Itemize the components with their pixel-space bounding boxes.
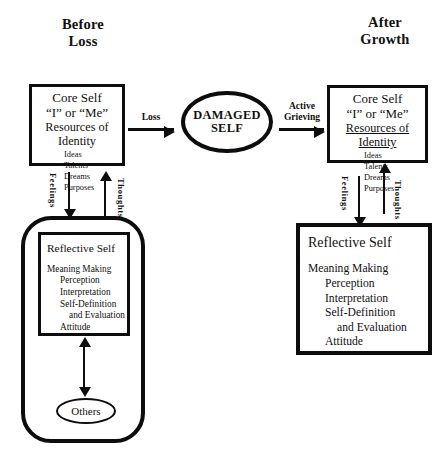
damaged-self-line1: DAMAGED xyxy=(193,109,261,122)
active-grieving-arrow xyxy=(279,128,324,131)
list-item: Self-Definition xyxy=(308,306,428,321)
active-grieving-line2: Grieving xyxy=(272,112,332,123)
thoughts-label-right: Thoughts xyxy=(393,180,403,220)
column-header-before-loss: Before Loss xyxy=(28,16,138,49)
loss-arrow xyxy=(128,128,174,131)
feelings-label-right: Feelings xyxy=(340,176,350,211)
feelings-arrow-right xyxy=(358,176,360,218)
thoughts-arrow-left xyxy=(104,180,106,218)
core-self-box-right: Core Self “I” or “Me” Resources of Ident… xyxy=(327,85,428,163)
list-item: Purposes xyxy=(64,182,120,193)
reflective-self-right-items: Meaning Making Perception Interpretation… xyxy=(308,262,428,350)
list-item: Interpretation xyxy=(47,287,127,299)
list-item: Talents xyxy=(364,161,423,172)
list-item: Perception xyxy=(47,275,127,287)
header-before-line1: Before xyxy=(28,16,138,33)
list-item: Interpretation xyxy=(308,292,428,307)
list-item: Talents xyxy=(64,160,120,171)
header-before-line2: Loss xyxy=(28,33,138,50)
list-item: Ideas xyxy=(64,149,120,160)
loss-arrow-label: Loss xyxy=(124,112,178,123)
list-item: Attitude xyxy=(308,335,428,350)
header-after-line1: After xyxy=(330,14,440,31)
core-self-left-title: Core Self xyxy=(34,91,120,106)
reflective-self-box-left: Reflective Self Meaning Making Perceptio… xyxy=(38,232,130,336)
active-grieving-arrow-label: Active Grieving xyxy=(272,101,332,122)
list-item: Meaning Making xyxy=(47,264,127,276)
feelings-label-left: Feelings xyxy=(48,173,58,208)
feelings-arrow-left xyxy=(68,172,70,210)
reflective-self-left-items: Meaning Making Perception Interpretation… xyxy=(47,264,127,334)
list-item: and Evaluation xyxy=(308,321,428,336)
column-header-after-growth: After Growth xyxy=(330,14,440,47)
thoughts-label-left: Thoughts xyxy=(116,178,126,218)
core-self-left-subtitle: “I” or “Me” xyxy=(34,106,120,121)
header-after-line2: Growth xyxy=(330,31,440,48)
others-label: Others xyxy=(71,405,100,417)
diagram-canvas: Before Loss After Growth Core Self “I” o… xyxy=(0,0,443,458)
core-self-left-resources-heading: Resources of Identity xyxy=(34,120,120,148)
reflective-self-right-title: Reflective Self xyxy=(308,235,428,250)
reflective-self-others-arrow xyxy=(83,346,85,388)
list-item: Self-Definition xyxy=(47,299,127,311)
core-self-right-subtitle: “I” or “Me” xyxy=(332,107,423,122)
core-self-right-title: Core Self xyxy=(332,92,423,107)
damaged-self-ellipse: DAMAGED SELF xyxy=(181,91,273,153)
reflective-self-left-title: Reflective Self xyxy=(47,242,127,255)
core-self-right-resources-heading: Resources of Identity xyxy=(332,121,423,149)
list-item: and Evaluation xyxy=(47,310,127,322)
core-self-box-left: Core Self “I” or “Me” Resources of Ident… xyxy=(29,84,125,166)
list-item: Attitude xyxy=(47,322,127,334)
thoughts-arrow-right xyxy=(383,172,385,214)
reflective-self-box-right: Reflective Self Meaning Making Perceptio… xyxy=(296,223,432,355)
list-item: Ideas xyxy=(364,150,423,161)
list-item: Meaning Making xyxy=(308,262,428,277)
others-ellipse: Others xyxy=(56,398,116,424)
damaged-self-line2: SELF xyxy=(193,122,261,135)
damaged-self-label: DAMAGED SELF xyxy=(193,109,261,136)
list-item: Perception xyxy=(308,277,428,292)
